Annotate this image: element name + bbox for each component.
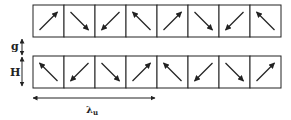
wavelength-label: λu [86, 104, 98, 117]
halbach-diagram: g H λu [0, 0, 291, 120]
bottom-magnet-row [33, 56, 281, 88]
height-label: H [10, 66, 20, 79]
gap-label: g [11, 40, 19, 53]
top-magnet-row [33, 5, 281, 37]
